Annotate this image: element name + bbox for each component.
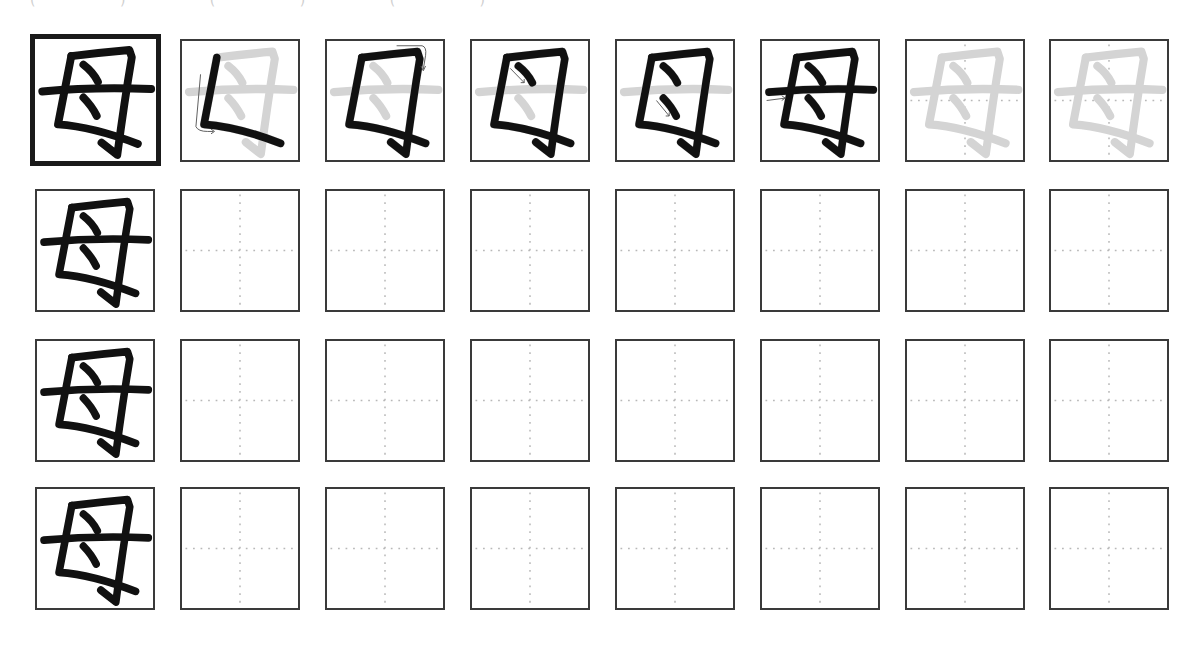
- character-glyph-icon: [1051, 489, 1167, 608]
- character-glyph-icon: [1051, 41, 1167, 160]
- character-glyph-icon: [327, 489, 443, 608]
- character-glyph-icon: [472, 191, 588, 310]
- character-glyph-icon: [472, 41, 588, 160]
- character-glyph-icon: [182, 489, 298, 608]
- character-glyph-icon: [327, 41, 443, 160]
- stroke-order-cell-5: [760, 39, 880, 162]
- practice-cell[interactable]: [325, 487, 445, 610]
- reference-character-cell: [35, 189, 155, 312]
- practice-cell[interactable]: [180, 339, 300, 462]
- reference-character-cell: [35, 339, 155, 462]
- stroke-order-cell-7: [1049, 39, 1169, 162]
- practice-cell[interactable]: [905, 339, 1025, 462]
- character-glyph-icon: [907, 341, 1023, 460]
- character-glyph-icon: [907, 191, 1023, 310]
- practice-cell[interactable]: [180, 189, 300, 312]
- practice-cell[interactable]: [760, 189, 880, 312]
- character-glyph-icon: [327, 191, 443, 310]
- character-glyph-icon: [37, 489, 153, 608]
- character-glyph-icon: [1051, 191, 1167, 310]
- practice-cell[interactable]: [180, 487, 300, 610]
- stroke-order-cell-3: [470, 39, 590, 162]
- character-glyph-icon: [617, 489, 733, 608]
- character-glyph-icon: [617, 191, 733, 310]
- character-glyph-icon: [472, 489, 588, 608]
- character-glyph-icon: [762, 489, 878, 608]
- stroke-order-cell-1: [180, 39, 300, 162]
- character-glyph-icon: [762, 191, 878, 310]
- character-glyph-icon: [617, 41, 733, 160]
- practice-cell[interactable]: [615, 189, 735, 312]
- practice-cell[interactable]: [760, 487, 880, 610]
- stroke-order-cell-4: [615, 39, 735, 162]
- model-character-cell: [30, 34, 161, 166]
- stroke-order-cell-6: [905, 39, 1025, 162]
- practice-cell[interactable]: [470, 339, 590, 462]
- practice-cell[interactable]: [325, 189, 445, 312]
- practice-cell[interactable]: [905, 487, 1025, 610]
- character-glyph-icon: [617, 341, 733, 460]
- practice-cell[interactable]: [760, 339, 880, 462]
- stroke-order-cell-2: [325, 39, 445, 162]
- practice-cell[interactable]: [615, 339, 735, 462]
- character-glyph-icon: [37, 341, 153, 460]
- character-glyph-icon: [182, 191, 298, 310]
- practice-cell[interactable]: [1049, 339, 1169, 462]
- cropped-header-text: ( ) ( ) ( ): [30, 0, 525, 8]
- character-glyph-icon: [907, 489, 1023, 608]
- practice-cell[interactable]: [470, 487, 590, 610]
- character-glyph-icon: [35, 39, 156, 161]
- practice-cell[interactable]: [1049, 189, 1169, 312]
- character-glyph-icon: [907, 41, 1023, 160]
- character-glyph-icon: [327, 341, 443, 460]
- character-glyph-icon: [182, 41, 298, 160]
- practice-cell[interactable]: [615, 487, 735, 610]
- practice-cell[interactable]: [470, 189, 590, 312]
- reference-character-cell: [35, 487, 155, 610]
- character-glyph-icon: [762, 41, 878, 160]
- practice-cell[interactable]: [325, 339, 445, 462]
- character-glyph-icon: [472, 341, 588, 460]
- character-glyph-icon: [37, 191, 153, 310]
- character-glyph-icon: [1051, 341, 1167, 460]
- practice-cell[interactable]: [905, 189, 1025, 312]
- practice-cell[interactable]: [1049, 487, 1169, 610]
- character-glyph-icon: [182, 341, 298, 460]
- character-glyph-icon: [762, 341, 878, 460]
